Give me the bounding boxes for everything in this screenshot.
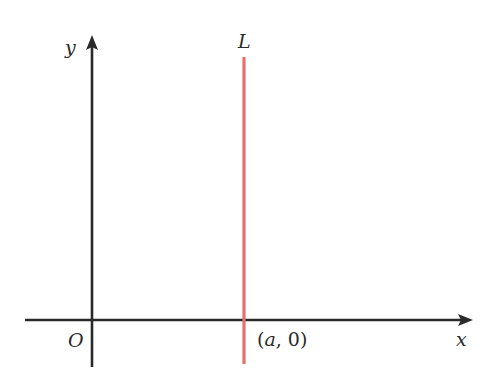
point-label-var: a	[264, 328, 275, 350]
x-axis-label: x	[456, 330, 467, 349]
point-label-rest: , 0)	[276, 328, 308, 350]
diagram-canvas: y L O (a, 0) x	[0, 0, 492, 390]
point-label: (a, 0)	[257, 330, 307, 349]
line-label: L	[238, 32, 251, 51]
origin-label: O	[68, 331, 84, 350]
y-axis-label: y	[65, 38, 76, 57]
